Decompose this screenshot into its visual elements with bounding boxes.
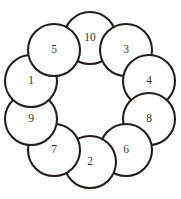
ring-diagram-svg: 10348627915 [0,0,181,199]
circle-nodes-group: 10348627915 [5,12,175,188]
node-label: 8 [146,112,152,124]
node-label: 6 [123,143,129,155]
node-label: 1 [28,74,34,86]
node-label: 4 [146,74,152,86]
circle-ring-figure: 10348627915 [0,0,181,199]
node-label: 10 [84,31,96,43]
node-label: 3 [123,43,129,55]
node-label: 7 [51,143,57,155]
node-label: 5 [51,43,57,55]
circle-node: 5 [28,24,80,76]
node-label: 2 [87,155,93,167]
node-label: 9 [28,112,34,124]
